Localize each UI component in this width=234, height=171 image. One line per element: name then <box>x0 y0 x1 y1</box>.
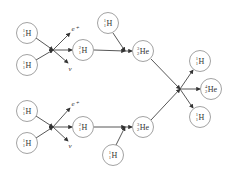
isotope-label-he4: 42He <box>205 85 217 94</box>
top-branch-edges <box>36 33 180 89</box>
element-symbol: H <box>25 61 31 69</box>
element-symbol: H <box>25 139 31 147</box>
isotope-label-he3b: 32He <box>137 123 149 132</box>
isotope-label-p2: 11H <box>23 61 32 70</box>
isotope-label-p5: 11H <box>104 19 113 28</box>
element-symbol: H <box>198 113 204 121</box>
bottom-branch-edges <box>36 89 180 145</box>
isotope-label-d2: 21H <box>79 123 88 132</box>
particle-label-e1: e⁺ <box>71 26 78 33</box>
isotope-label-out1: 11H <box>196 57 205 66</box>
isotope-label-he3a: 32He <box>137 47 149 56</box>
element-symbol: H <box>25 29 31 37</box>
element-symbol: H <box>106 19 112 27</box>
element-symbol: He <box>140 123 149 131</box>
particle-label-nu2: ν <box>68 143 71 150</box>
element-symbol: H <box>111 151 117 159</box>
final-edges <box>180 70 200 108</box>
element-symbol: He <box>140 47 149 55</box>
particle-label-e2: e⁺ <box>71 101 78 108</box>
isotope-label-d1: 21H <box>79 46 88 55</box>
isotope-label-p1: 11H <box>23 29 32 38</box>
element-symbol: H <box>198 57 204 65</box>
isotope-label-out2: 11H <box>196 113 205 122</box>
element-symbol: H <box>25 107 31 115</box>
reaction-diagram <box>0 0 234 171</box>
element-symbol: He <box>208 85 217 93</box>
isotope-label-p3: 11H <box>23 107 32 116</box>
element-symbol: H <box>81 123 87 131</box>
isotope-label-p6: 11H <box>109 151 118 160</box>
isotope-label-p4: 11H <box>23 139 32 148</box>
particle-label-nu1: ν <box>68 66 71 73</box>
element-symbol: H <box>81 46 87 54</box>
